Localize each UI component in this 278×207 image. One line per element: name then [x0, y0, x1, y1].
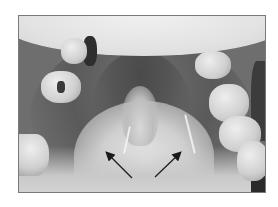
palate-photograph	[18, 15, 266, 193]
left-arrow-icon	[107, 153, 132, 178]
annotation-arrows	[19, 16, 265, 192]
right-arrow-icon	[155, 153, 180, 177]
